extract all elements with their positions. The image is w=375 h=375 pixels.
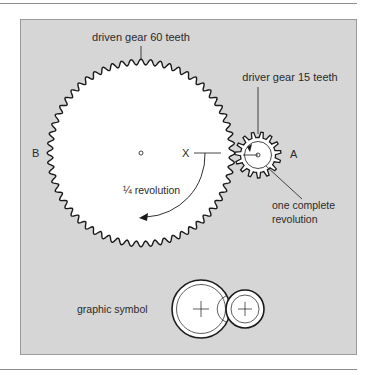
one-complete-label-line1: one complete — [272, 199, 335, 211]
driven-gear-label: driven gear 60 teeth — [92, 31, 190, 43]
graphic-symbol-label: graphic symbol — [77, 303, 148, 315]
point-x-label: X — [182, 147, 190, 159]
one-complete-label-line2: revolution — [272, 213, 318, 225]
quarter-revolution-label: ¼ revolution — [123, 184, 180, 196]
point-b-label: B — [32, 147, 39, 159]
driver-gear-label: driver gear 15 teeth — [242, 71, 337, 83]
point-a-label: A — [290, 148, 298, 160]
gear-diagram: driven gear 60 teeth driver gear 15 teet… — [0, 0, 375, 375]
